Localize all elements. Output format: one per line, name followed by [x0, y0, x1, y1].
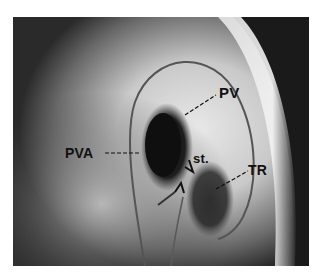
label-pv: PV — [219, 85, 239, 100]
angiogram-image: PV PVA st. TR — [13, 17, 309, 266]
label-tr: TR — [248, 163, 267, 177]
label-pva: PVA — [65, 146, 93, 160]
angiogram-graphic — [13, 17, 309, 266]
label-st: st. — [193, 152, 209, 165]
